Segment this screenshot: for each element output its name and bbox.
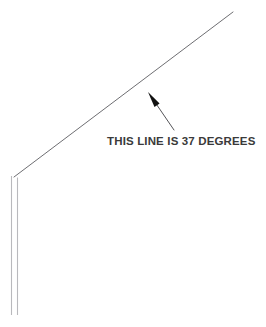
canvas-background — [0, 0, 266, 327]
diagram-drawing: THIS LINE IS 37 DEGREES — [0, 0, 266, 327]
annotation-label: THIS LINE IS 37 DEGREES — [107, 135, 256, 147]
diagram-canvas: THIS LINE IS 37 DEGREES — [0, 0, 266, 327]
